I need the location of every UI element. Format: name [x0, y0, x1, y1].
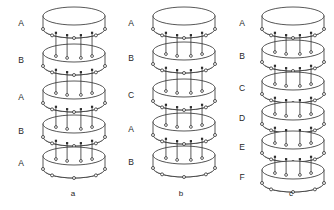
disc-top-ellipse-2	[262, 72, 324, 90]
rod-node-bottom	[176, 159, 179, 162]
rim-node-circle	[323, 93, 326, 96]
rod-node-bottom	[66, 128, 69, 131]
layer-label-a-3: B	[18, 126, 24, 136]
rim-node-circle	[323, 152, 326, 155]
rod-node-top	[190, 69, 192, 71]
rod-node-top	[285, 34, 287, 36]
rod-node-bottom	[91, 126, 94, 129]
rod-node-top	[91, 106, 93, 108]
rod-node-top	[274, 65, 276, 67]
disc-layer-c-0	[261, 7, 326, 40]
rod-node-bottom	[176, 92, 179, 95]
rod-node-top	[310, 32, 312, 34]
rim-node-circle	[161, 106, 164, 109]
rim-node-circle	[261, 152, 264, 155]
disc-top-ellipse-4	[262, 131, 324, 149]
rim-node-circle	[270, 188, 273, 191]
rim-node-circle	[94, 34, 97, 37]
layer-label-a-0: A	[18, 18, 24, 28]
rim-node-circle	[152, 63, 155, 66]
rim-node-circle	[261, 123, 264, 126]
rim-node-circle	[313, 188, 316, 191]
rod-node-bottom	[91, 92, 94, 95]
rim-node-circle	[214, 63, 217, 66]
rod-node-bottom	[274, 83, 277, 86]
disc-top-ellipse-1	[43, 44, 105, 62]
rim-node-circle	[270, 34, 273, 37]
rod-node-bottom	[189, 92, 192, 95]
rod-node-top	[80, 142, 82, 144]
rim-node-circle	[152, 167, 155, 170]
rim-node-circle	[94, 108, 97, 111]
disc-top-ellipse-4	[43, 147, 105, 165]
rim-node-circle	[104, 168, 107, 171]
rim-node-circle	[104, 102, 107, 105]
rim-node-circle	[73, 74, 76, 77]
layer-label-b-0: A	[128, 18, 134, 28]
rod-node-top	[310, 127, 312, 129]
rod-node-bottom	[165, 90, 168, 93]
rim-node-circle	[94, 142, 97, 145]
rod-node-bottom	[189, 55, 192, 58]
disc-layer-b-2	[152, 79, 217, 112]
rim-node-circle	[152, 100, 155, 103]
rim-node-circle	[214, 100, 217, 103]
panel-b: ABCABb	[128, 7, 217, 198]
rim-node-circle	[270, 67, 273, 70]
layer-label-c-5: F	[239, 172, 244, 182]
rim-node-circle	[313, 129, 316, 132]
rim-node-circle	[161, 140, 164, 143]
rod-node-top	[190, 106, 192, 108]
rim-node-circle	[292, 37, 295, 40]
rod-node-top	[165, 104, 167, 106]
rim-node-circle	[204, 34, 207, 37]
rod-node-top	[55, 69, 57, 71]
rim-node-circle	[51, 108, 54, 111]
rod-node-bottom	[285, 174, 288, 177]
rod-node-bottom	[66, 160, 69, 163]
rod-node-top	[66, 108, 68, 110]
rod-node-bottom	[298, 115, 301, 118]
rod-node-bottom	[285, 144, 288, 147]
disc-layer-c-1	[261, 40, 326, 73]
rod-node-top	[66, 142, 68, 144]
rod-node-bottom	[274, 51, 277, 54]
rod-node-bottom	[165, 124, 168, 127]
rod-node-bottom	[274, 113, 277, 116]
disc-top-ellipse-3	[43, 115, 105, 133]
rod-node-top	[91, 69, 93, 71]
rod-node-bottom	[79, 128, 82, 131]
rod-node-top	[176, 34, 178, 36]
rod-node-bottom	[79, 160, 82, 163]
rim-node-circle	[313, 67, 316, 70]
rim-node-circle	[183, 72, 186, 75]
rim-node-circle	[94, 71, 97, 74]
rim-node-circle	[214, 134, 217, 137]
disc-layer-a-3	[42, 115, 107, 148]
rod-node-top	[80, 34, 82, 36]
rim-node-circle	[161, 173, 164, 176]
rim-node-circle	[261, 93, 264, 96]
layer-label-b-1: B	[128, 53, 134, 63]
rod-node-top	[201, 32, 203, 34]
panel-caption-a: a	[71, 189, 76, 198]
disc-layer-b-3	[152, 113, 217, 146]
disc-top-ellipse-2	[43, 81, 105, 99]
rod-node-top	[299, 67, 301, 69]
disc-layer-a-2	[42, 81, 107, 114]
rod-node-top	[165, 67, 167, 69]
disc-layer-b-0	[152, 7, 217, 40]
rod-node-top	[285, 129, 287, 131]
rod-node-top	[274, 32, 276, 34]
rod-node-top	[190, 34, 192, 36]
rod-node-bottom	[189, 159, 192, 162]
rod-node-top	[55, 106, 57, 108]
rod-node-top	[274, 97, 276, 99]
rod-node-top	[55, 32, 57, 34]
disc-layer-a-1	[42, 44, 107, 77]
disc-layer-c-3	[261, 102, 326, 135]
rim-node-circle	[42, 136, 45, 139]
rod-node-bottom	[310, 172, 313, 175]
layer-label-c-3: D	[239, 113, 245, 123]
panel-c: ABCDEFc	[239, 7, 326, 198]
